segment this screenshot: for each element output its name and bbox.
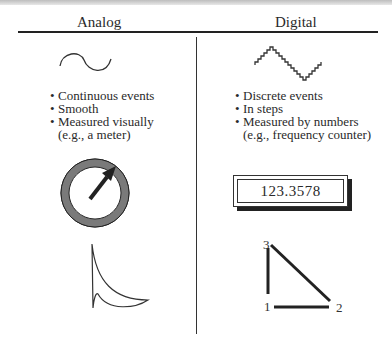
heading-digital: Digital [275, 14, 317, 31]
analog-meter-dial-icon [55, 153, 135, 233]
smooth-sine-wave-icon [58, 48, 114, 76]
analog-bullet-list: •Continuous events •Smooth •Measured vis… [50, 89, 154, 141]
counter-value: 123.3578 [237, 179, 344, 203]
digital-counter-display: 123.3578 [233, 175, 348, 207]
bullet-continuation: (e.g., a meter) [50, 128, 154, 141]
triangle-label-1: 1 [264, 299, 271, 315]
triangle-label-3: 3 [263, 237, 270, 253]
digital-bullet-list: •Discrete events •In steps •Measured by … [235, 89, 371, 141]
top-band [0, 0, 392, 5]
heading-analog: Analog [77, 14, 121, 31]
header-rule [18, 31, 378, 33]
analog-curve-icon [88, 242, 150, 312]
stepped-wave-icon [254, 46, 332, 86]
column-divider [196, 37, 197, 334]
triangle-label-2: 2 [336, 300, 343, 316]
bullet-continuation: (e.g., frequency counter) [235, 128, 371, 141]
